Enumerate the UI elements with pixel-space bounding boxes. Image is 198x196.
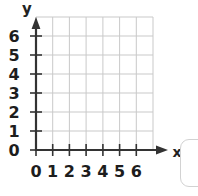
y-tick-label-5: 5 bbox=[6, 48, 22, 64]
x-tick-label-1: 1 bbox=[45, 164, 61, 180]
y-axis-title: y bbox=[20, 2, 34, 17]
coordinate-plane-figure: y x 0 1 2 3 4 5 6 0 1 2 3 4 5 6 bbox=[0, 0, 198, 196]
y-tick-label-1: 1 bbox=[6, 124, 22, 140]
x-tick-label-4: 4 bbox=[95, 164, 111, 180]
y-tick-label-4: 4 bbox=[6, 67, 22, 83]
x-tick-label-5: 5 bbox=[112, 164, 128, 180]
x-axis-line bbox=[35, 146, 168, 155]
x-tick-label-0: 0 bbox=[28, 164, 44, 180]
x-tick-label-6: 6 bbox=[128, 164, 144, 180]
y-tick-label-6: 6 bbox=[6, 29, 22, 45]
y-tick-label-0: 0 bbox=[6, 143, 22, 159]
rounded-panel-fragment bbox=[180, 139, 198, 187]
grid-lines bbox=[36, 17, 153, 150]
x-tick-label-2: 2 bbox=[61, 164, 77, 180]
x-tick-label-3: 3 bbox=[78, 164, 94, 180]
y-tick-label-3: 3 bbox=[6, 86, 22, 102]
y-tick-label-2: 2 bbox=[6, 105, 22, 121]
